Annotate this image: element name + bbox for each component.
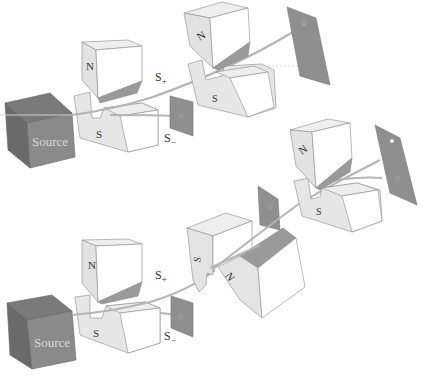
top-source-label: Source (32, 134, 68, 149)
top-magnet2-south: S (188, 60, 276, 117)
bottom-source-label: Source (34, 335, 70, 350)
top-setup: Source S N S+ S− (0, 2, 330, 168)
bottom-beam-up-label: S+ (155, 268, 167, 284)
top-large-screen (287, 7, 330, 85)
top-magnet2-s-label: S (212, 93, 218, 104)
bottom-small-screen (171, 296, 193, 337)
bottom-beam-down-label: S− (164, 329, 176, 345)
bottom-magnet1-s-label: S (93, 327, 99, 339)
top-source-cube: Source (5, 93, 75, 168)
top-beam-down (110, 115, 175, 116)
bottom-magnet1-north: N (82, 239, 142, 304)
bottom-large-screen (375, 125, 417, 205)
bottom-middle-screen (258, 186, 280, 230)
top-beam-up-label: S+ (155, 70, 167, 86)
bottom-source-cube: Source (7, 295, 76, 369)
top-magnet1-n-label: N (86, 60, 94, 72)
top-magnet1-south: S (74, 92, 158, 152)
top-beam-down-label: S− (164, 131, 176, 147)
bottom-magnet3-south: S (294, 178, 382, 232)
top-magnet1-s-label: S (96, 128, 102, 140)
bottom-magnet2-rotated: S N (187, 213, 305, 318)
bottom-magnet3-s-label: S (316, 206, 322, 217)
top-magnet2-north: N (184, 2, 250, 70)
bottom-magnet1-n-label: N (88, 259, 96, 271)
top-magnet1-north: N (82, 40, 142, 103)
stern-gerlach-diagram: Source S N S+ S− (0, 0, 423, 377)
screen-spot-upper (390, 139, 394, 143)
top-small-screen (170, 96, 193, 136)
